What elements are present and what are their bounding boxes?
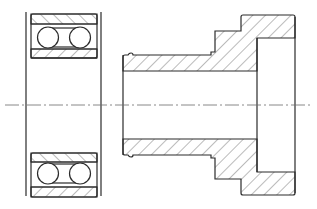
ball-icon: [70, 27, 91, 48]
bearing-bottom-section: [31, 153, 97, 197]
section-drawing: [0, 0, 317, 209]
bearing: [26, 12, 101, 197]
ball-icon: [38, 163, 59, 184]
sleeve-bottom-section: [123, 139, 295, 195]
sleeve-top-section: [123, 15, 295, 71]
ball-icon: [38, 27, 59, 48]
bearing-top-section: [31, 14, 97, 58]
ball-icon: [70, 163, 91, 184]
